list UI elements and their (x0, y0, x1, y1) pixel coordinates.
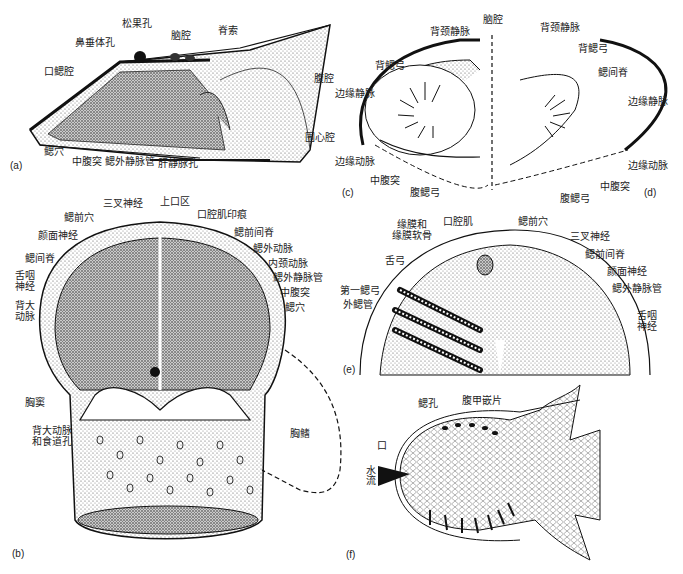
label-b-prebranchial-ridge: 鳃前间脊 (234, 227, 274, 238)
label-oralobranchial-chamber: 口鳃腔 (44, 66, 74, 77)
panel-label-a: (a) (10, 160, 22, 171)
label-b-extrabranchial-artery: 鳃外动脉 (253, 243, 293, 254)
label-e-extrabranchial-vein-canal: 鳃外静脉管 (612, 283, 662, 294)
label-b-upper-oral-region: 上口区 (160, 196, 190, 207)
label-b-pectoral-sinus: 胸窦 (25, 397, 45, 408)
label-b-pectoral-fin: 胸鳍 (290, 428, 310, 439)
label-d-median-ventral-process: 中腹突 (600, 181, 630, 192)
label-c-ventral-branchial-arch: 腹鳃弓 (410, 187, 440, 198)
label-f-water-flow: 水流 (364, 465, 375, 485)
label-extrabranchial-vein-canal: 鳃外静脉管 (105, 156, 155, 167)
label-e-prebranchial-ridge: 鳃前间脊 (585, 249, 625, 260)
label-abdominal-cavity: 腹腔 (314, 73, 334, 84)
label-e-velum-cartilage: 缘膜和 缘膜软骨 (392, 219, 432, 241)
label-b-internal-carotid: 内颈动脉 (268, 258, 308, 269)
label-c-marginal-vein: 边缘静脉 (335, 88, 375, 99)
label-b-oral-muscle-scar: 口腔肌印痕 (197, 209, 247, 220)
label-e-first-branchial-arch: 第一鳃弓 (340, 285, 380, 296)
panel-label-f: (f) (346, 549, 355, 560)
label-e-glossopharyngeal-nerve: 舌咽 神经 (637, 310, 657, 332)
label-nasohypophyseal-opening: 鼻垂体孔 (75, 37, 115, 48)
panel-label-d: (d) (644, 187, 656, 198)
label-notochord: 脊索 (218, 25, 238, 36)
label-b-aorta-esophagus-foramen: 背大动脉 和食道孔 (32, 425, 72, 447)
label-e-oral-muscle: 口腔肌 (443, 216, 473, 227)
label-e-external-branchial-duct: 外鳃管 (343, 299, 373, 310)
label-e-facial-nerve: 颜面神经 (607, 266, 647, 277)
label-median-ventral-process: 中腹突 (72, 156, 102, 167)
panel-label-b: (b) (12, 548, 24, 559)
label-e-trigeminal-nerve: 三叉神经 (570, 231, 610, 242)
label-c-dorsal-jugular-vein: 背颈静脉 (430, 26, 470, 37)
label-b-prebranchial-fossa: 鳃前穴 (64, 212, 94, 223)
label-d-interbranchial-ridge: 鳃间脊 (598, 67, 628, 78)
label-f-ventral-plates: 腹甲嵌片 (462, 395, 502, 406)
label-b-facial-nerve: 颜面神经 (38, 230, 78, 241)
label-d-marginal-vein: 边缘静脉 (628, 96, 668, 107)
label-c-median-ventral-process: 中腹突 (370, 175, 400, 186)
label-b-dorsal-aorta: 背大 动脉 (15, 300, 35, 322)
label-pericardial-cavity: 围心腔 (305, 132, 335, 143)
label-brain-cavity: 脑腔 (171, 30, 191, 41)
label-b-trigeminal-nerve: 三叉神经 (103, 198, 143, 209)
label-hepatic-vein-foramen: 肝静脉孔 (158, 158, 198, 169)
label-c-dorsal-branchial-arch: 背鳃弓 (375, 60, 405, 71)
label-d-marginal-artery: 边缘动脉 (628, 160, 668, 171)
label-b-median-ventral-process: 中腹突 (280, 287, 310, 298)
label-e-prebranchial-fossa: 鳃前穴 (518, 216, 548, 227)
label-d-dorsal-branchial-arch: 背鳃弓 (578, 43, 608, 54)
label-branchial-fossa: 鳃穴 (44, 146, 64, 157)
label-f-mouth: 口 (377, 440, 387, 451)
label-d-brain-cavity: 脑腔 (483, 14, 503, 25)
label-pineal-foramen: 松果孔 (122, 18, 152, 29)
label-d-dorsal-jugular-vein: 背颈静脉 (540, 22, 580, 33)
label-b-branchial-fossa: 鳃穴 (285, 302, 305, 313)
panel-f-drawing (378, 385, 600, 560)
panel-label-e: (e) (343, 364, 355, 375)
label-b-extrabranchial-vein-canal: 鳃外静脉管 (273, 272, 323, 283)
label-f-branchial-openings: 鳃孔 (418, 398, 438, 409)
label-e-hyoid-arch: 舌弓 (385, 255, 405, 266)
panel-b-drawing (40, 222, 341, 539)
label-c-marginal-artery: 边缘动脉 (335, 156, 375, 167)
panel-label-c: (c) (342, 187, 354, 198)
label-b-glossopharyngeal-nerve: 舌咽 神经 (15, 270, 35, 292)
label-b-interbranchial-ridge: 鳃间脊 (25, 253, 55, 264)
panel-cd-drawing (361, 35, 666, 190)
label-d-ventral-branchial-arch: 腹鳃弓 (560, 193, 590, 204)
